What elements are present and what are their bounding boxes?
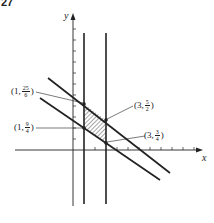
label-point-3-3-4: (3,34) bbox=[144, 129, 164, 142]
x-axis bbox=[15, 147, 203, 153]
graph-diagram bbox=[0, 0, 214, 223]
upper-diagonal-line bbox=[48, 78, 170, 173]
label-point-3-5-2: (3,52) bbox=[134, 99, 154, 112]
label-point-1-25-6: (1,256) bbox=[11, 85, 34, 98]
y-axis-label: y bbox=[64, 10, 68, 21]
leader-line-p1 bbox=[36, 92, 83, 103]
x-axis-label: x bbox=[202, 152, 206, 163]
label-point-1-9-4: (1,94) bbox=[14, 121, 34, 134]
leader-line-p4 bbox=[107, 136, 145, 142]
shaded-region bbox=[84, 104, 106, 143]
leader-line-p3 bbox=[107, 106, 133, 119]
y-axis bbox=[71, 13, 77, 206]
